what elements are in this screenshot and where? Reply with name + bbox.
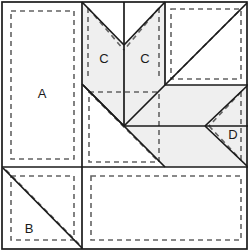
quilt-block-diagram: A C C D B xyxy=(0,0,248,251)
piece-label-d: D xyxy=(228,127,237,142)
piece-label-c-right: C xyxy=(140,51,149,66)
piece-label-b: B xyxy=(25,221,34,236)
piece-label-c-left: C xyxy=(99,51,108,66)
quilt-diagram-canvas: A C C D B xyxy=(0,0,248,251)
piece-label-a: A xyxy=(38,86,47,101)
